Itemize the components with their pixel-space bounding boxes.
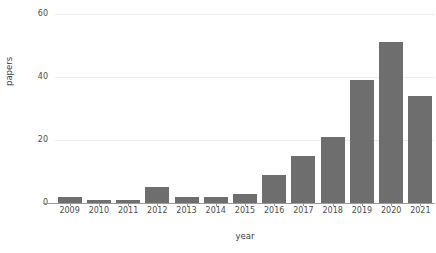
- x-tick-mark-2017: [303, 203, 304, 206]
- x-tick-label-2011: 2011: [113, 206, 142, 216]
- x-tick-label-2016: 2016: [260, 206, 289, 216]
- y-tick-label-20: 20: [18, 135, 48, 144]
- y-tick-label-60: 60: [18, 9, 48, 18]
- x-tick-mark-2014: [216, 203, 217, 206]
- x-tick-label-2017: 2017: [289, 206, 318, 216]
- x-tick-label-2013: 2013: [172, 206, 201, 216]
- x-tick-mark-2018: [333, 203, 334, 206]
- x-tick-label-2020: 2020: [377, 206, 406, 216]
- y-axis-title: papers: [4, 57, 14, 86]
- x-tick-mark-2012: [157, 203, 158, 206]
- x-tick-mark-2010: [99, 203, 100, 206]
- x-tick-mark-2020: [391, 203, 392, 206]
- x-axis-title: year: [55, 231, 435, 241]
- x-tick-mark-2011: [128, 203, 129, 206]
- x-tick-label-2019: 2019: [347, 206, 376, 216]
- x-tick-label-2018: 2018: [318, 206, 347, 216]
- x-tick-label-2015: 2015: [230, 206, 259, 216]
- x-axis: 2009201020112012201320142015201620172018…: [55, 0, 435, 253]
- y-tick-label-40: 40: [18, 72, 48, 81]
- x-tick-label-2012: 2012: [143, 206, 172, 216]
- x-tick-label-2009: 2009: [55, 206, 84, 216]
- bar-chart: 60 40 20 0 20092010201120122013201420152…: [0, 0, 436, 253]
- x-tick-mark-2021: [420, 203, 421, 206]
- y-axis: 60 40 20 0: [0, 0, 48, 253]
- x-tick-label-2014: 2014: [201, 206, 230, 216]
- x-tick-mark-2013: [187, 203, 188, 206]
- x-tick-mark-2019: [362, 203, 363, 206]
- x-tick-mark-2016: [274, 203, 275, 206]
- x-tick-label-2021: 2021: [406, 206, 435, 216]
- x-tick-mark-2015: [245, 203, 246, 206]
- x-tick-label-2010: 2010: [84, 206, 113, 216]
- x-tick-mark-2009: [70, 203, 71, 206]
